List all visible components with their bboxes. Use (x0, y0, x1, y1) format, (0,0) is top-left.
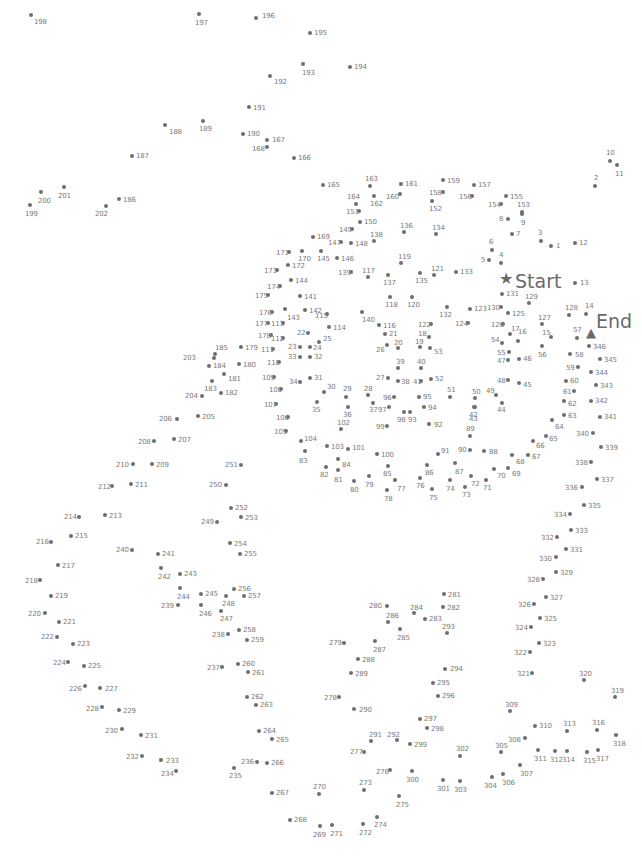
dot-point (362, 788, 366, 792)
dot-point (615, 163, 619, 167)
dot-point (375, 452, 379, 456)
dot-number-label: 125 (512, 310, 525, 318)
dot-number-label: 262 (251, 693, 264, 701)
dot-point (423, 617, 427, 621)
dot-point (308, 376, 312, 380)
dot-point (327, 325, 331, 329)
dot-number-label: 7 (516, 230, 520, 238)
dot-point (372, 239, 376, 243)
dot-point (178, 572, 182, 576)
dot-number-label: 307 (520, 770, 533, 778)
dot-point (422, 405, 426, 409)
dot-point (238, 552, 242, 556)
dot-number-label: 332 (541, 534, 554, 542)
dot-point (349, 671, 353, 675)
dot-number-label: 178 (258, 332, 271, 340)
dot-point (270, 737, 274, 741)
dot-number-label: 51 (447, 386, 456, 394)
dot-point (573, 281, 577, 285)
dot-number-label: 49 (486, 387, 495, 395)
dot-number-label: 212 (98, 483, 111, 491)
dot-number-label: 104 (304, 435, 317, 443)
dot-number-label: 341 (604, 413, 617, 421)
dot-number-label: 268 (294, 816, 307, 824)
dot-point (219, 609, 223, 613)
dot-number-label: 265 (276, 736, 289, 744)
dot-point (429, 377, 433, 381)
dot-point (562, 399, 566, 403)
dot-point (247, 105, 251, 109)
dot-point (303, 308, 307, 312)
dot-number-label: 338 (575, 459, 588, 467)
dot-number-label: 50 (472, 388, 481, 396)
dot-point (536, 748, 540, 752)
dot-number-label: 242 (158, 573, 171, 581)
dot-point (508, 709, 512, 713)
dot-point (159, 566, 163, 570)
dot-point (163, 123, 167, 127)
dot-point (239, 463, 243, 467)
dot-number-label: 62 (568, 400, 577, 408)
dot-number-label: 60 (570, 377, 579, 385)
dot-point (402, 230, 406, 234)
dot-point (436, 452, 440, 456)
dot-number-label: 200 (38, 197, 51, 205)
dot-number-label: 4 (499, 251, 503, 259)
dot-number-label: 248 (222, 600, 235, 608)
dot-number-label: 129 (525, 293, 538, 301)
dot-point (484, 478, 488, 482)
dot-point (129, 482, 133, 486)
dot-point (386, 620, 390, 624)
dot-number-label: 263 (260, 701, 273, 709)
dot-number-label: 41 (413, 378, 422, 386)
dot-point (427, 335, 431, 339)
dot-point (175, 417, 179, 421)
dot-point (237, 362, 241, 366)
dot-number-label: 221 (63, 618, 76, 626)
dot-number-label: 70 (497, 472, 506, 480)
dot-number-label: 286 (386, 612, 399, 620)
dot-point (468, 448, 472, 452)
dot-number-label: 119 (398, 253, 411, 261)
dot-number-label: 322 (514, 649, 527, 657)
dot-number-label: 318 (613, 740, 626, 748)
dot-point (254, 16, 258, 20)
dot-point (156, 552, 160, 556)
dot-number-label: 258 (243, 626, 256, 634)
dot-number-label: 271 (330, 830, 343, 838)
dot-number-label: 87 (455, 468, 464, 476)
dot-number-label: 343 (600, 382, 613, 390)
dot-number-label: 231 (145, 732, 158, 740)
dot-point (224, 483, 228, 487)
dot-point (458, 754, 462, 758)
dot-number-label: 96 (383, 394, 392, 402)
dot-number-label: 304 (484, 782, 497, 790)
dot-number-label: 31 (314, 374, 323, 382)
dot-number-label: 316 (592, 719, 605, 727)
dot-point (565, 749, 569, 753)
dot-to-dot-puzzle: ★ Start ▲ End 12345678910111213141516171… (0, 0, 642, 860)
dot-number-label: 37 (369, 406, 378, 414)
dot-point (469, 474, 473, 478)
dot-number-label: 140 (362, 316, 375, 324)
dot-point (388, 295, 392, 299)
dot-point (531, 439, 535, 443)
dot-number-label: 334 (554, 511, 567, 519)
dot-point (356, 657, 360, 661)
dot-number-label: 239 (161, 602, 174, 610)
dot-number-label: 75 (429, 494, 438, 502)
dot-number-label: 29 (343, 385, 352, 393)
dot-number-label: 69 (512, 470, 521, 478)
dot-number-label: 235 (229, 772, 242, 780)
dot-number-label: 142 (309, 307, 322, 315)
dot-number-label: 17 (511, 325, 520, 333)
dot-number-label: 72 (471, 480, 480, 488)
dot-number-label: 165 (327, 181, 340, 189)
dot-number-label: 315 (583, 757, 596, 765)
dot-number-label: 128 (565, 304, 578, 312)
dot-point (458, 779, 462, 783)
dot-point (383, 332, 387, 336)
dot-point (255, 760, 259, 764)
dot-point (77, 515, 81, 519)
dot-number-label: 36 (343, 411, 352, 419)
